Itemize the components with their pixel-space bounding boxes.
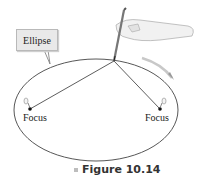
caption-text: Figure 10.14 — [82, 163, 161, 176]
ellipse-diagram — [0, 0, 200, 185]
pin-right-icon — [160, 98, 166, 108]
ellipse-shape — [14, 59, 178, 161]
focus-right-label: Focus — [145, 112, 169, 123]
caption-bullet-icon — [74, 168, 78, 172]
figure-caption: Figure 10.14 — [74, 163, 161, 176]
string-right — [114, 61, 160, 109]
focus-left-label: Focus — [23, 112, 47, 123]
hand-with-pencil-icon — [114, 8, 193, 61]
callout-pointer — [44, 50, 50, 64]
string-left — [30, 61, 114, 109]
callout-label: Ellipse — [23, 35, 51, 46]
ellipse-callout: Ellipse — [16, 29, 58, 51]
pin-left-icon — [24, 98, 30, 108]
